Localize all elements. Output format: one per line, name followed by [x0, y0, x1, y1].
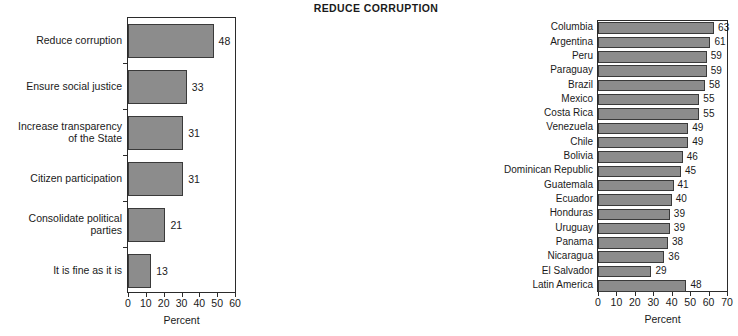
bar [598, 51, 707, 62]
category-label: Uruguay [555, 222, 593, 234]
category-label: Guatemala [544, 179, 593, 191]
bar-value-label: 55 [703, 94, 714, 104]
bar [598, 280, 686, 291]
category-label: Ensure social justice [26, 80, 122, 92]
bar-value-label: 36 [668, 252, 679, 262]
bar-value-label: 61 [714, 37, 725, 47]
bar [598, 137, 688, 148]
x-tick-label: 10 [611, 296, 623, 308]
bar-value-label: 31 [188, 128, 200, 139]
chart-right-x-axis-title: Percent [644, 313, 680, 325]
category-label: Brazil [568, 79, 593, 91]
category-label: Ecuador [556, 193, 593, 205]
x-tick-label: 30 [647, 296, 659, 308]
bar [598, 266, 651, 277]
bar-value-label: 45 [685, 166, 696, 176]
chart-right-plot-area: 63615959585555494946454140393938362948 [597, 20, 728, 292]
bar [598, 166, 681, 177]
category-label: Panama [556, 236, 593, 248]
category-label: Costa Rica [544, 107, 593, 119]
bar-value-label: 33 [192, 82, 204, 93]
bar [598, 151, 683, 162]
bar [598, 251, 664, 262]
chart-right-category-labels: ColumbiaArgentinaPeruParaguayBrazilMexic… [498, 20, 593, 292]
bar-value-label: 29 [655, 266, 666, 276]
bar-value-label: 59 [711, 51, 722, 61]
chart-left-plot-area: 483331312113 [127, 17, 236, 293]
category-label: Paraguay [550, 64, 593, 76]
chart-left-category-labels: Reduce corruptionEnsure social justiceIn… [0, 17, 122, 293]
x-tick-label: 50 [684, 296, 696, 308]
x-tick-label: 30 [176, 297, 188, 309]
bar [598, 209, 670, 220]
bar-value-label: 38 [672, 237, 683, 247]
category-label: Chile [570, 136, 593, 148]
category-label: Nicaragua [547, 250, 593, 262]
x-tick-label: 60 [229, 297, 241, 309]
y-tick-mark [123, 201, 128, 202]
bar [598, 194, 672, 205]
bar-value-label: 55 [703, 109, 714, 119]
category-label: Citizen participation [30, 172, 122, 184]
bar [598, 180, 674, 191]
bar [598, 223, 670, 234]
chart-panel-right: REDUCE CORRUPTION ColumbiaArgentinaPeruP… [248, 0, 504, 336]
x-tick-label: 60 [703, 296, 715, 308]
category-label: Venezuela [546, 121, 593, 133]
x-tick-label: 10 [140, 297, 152, 309]
bar-value-label: 31 [188, 174, 200, 185]
chart-right-bars: 63615959585555494946454140393938362948 [598, 21, 727, 291]
bar-value-label: 63 [718, 23, 729, 33]
category-label: Reduce corruption [36, 34, 122, 46]
x-tick-label: 0 [595, 296, 601, 308]
bar [598, 80, 705, 91]
bar [128, 24, 214, 57]
category-label: Bolivia [564, 150, 593, 162]
chart-right-x-axis: 010203040506070 [248, 292, 738, 312]
category-label: Latin America [532, 279, 593, 291]
category-label: Honduras [550, 207, 593, 219]
category-label: Dominican Republic [504, 164, 593, 176]
x-tick-label: 70 [721, 296, 733, 308]
category-label: It is fine as it is [53, 264, 122, 276]
chart-left-bars: 483331312113 [128, 18, 235, 292]
y-tick-mark [123, 247, 128, 248]
y-tick-mark [123, 109, 128, 110]
bar [128, 116, 183, 149]
bar-value-label: 49 [692, 137, 703, 147]
bar [598, 22, 714, 33]
chart-right-title: REDUCE CORRUPTION [248, 2, 504, 14]
bar [598, 237, 668, 248]
bar [598, 94, 699, 105]
category-label: Columbia [551, 21, 593, 33]
bar-value-label: 49 [692, 123, 703, 133]
bar [598, 108, 699, 119]
bar-value-label: 39 [674, 223, 685, 233]
bar-value-label: 48 [690, 280, 701, 290]
bar-value-label: 48 [219, 36, 231, 47]
bar-value-label: 59 [711, 66, 722, 76]
category-label: Argentina [550, 36, 593, 48]
x-tick-label: 40 [193, 297, 205, 309]
category-label: El Salvador [542, 265, 593, 277]
bar [598, 123, 688, 134]
category-label: Increase transparencyof the State [18, 120, 122, 145]
category-label: Peru [572, 50, 593, 62]
x-tick-label: 50 [211, 297, 223, 309]
bar [128, 208, 165, 241]
bar-value-label: 13 [156, 266, 168, 277]
category-label: Mexico [561, 93, 593, 105]
bar-value-label: 41 [678, 180, 689, 190]
bar [128, 70, 187, 103]
bar [128, 162, 183, 195]
bar [598, 65, 707, 76]
bar-value-label: 58 [709, 80, 720, 90]
bar [598, 37, 710, 48]
bar-value-label: 46 [687, 152, 698, 162]
x-tick-label: 40 [666, 296, 678, 308]
x-tick-label: 20 [629, 296, 641, 308]
x-tick-label: 20 [158, 297, 170, 309]
bar-value-label: 39 [674, 209, 685, 219]
y-tick-mark [123, 63, 128, 64]
